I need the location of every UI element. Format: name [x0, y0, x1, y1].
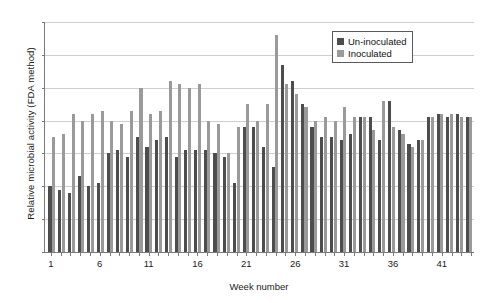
bar-inoculated	[372, 130, 375, 252]
bar-un-inoculated	[291, 81, 294, 252]
x-tick-mark	[158, 252, 159, 256]
bar-inoculated	[275, 35, 278, 252]
x-tick-mark	[461, 252, 462, 256]
bar-inoculated	[246, 104, 249, 252]
bar-inoculated	[217, 124, 220, 252]
bar-inoculated	[431, 117, 434, 252]
bar-un-inoculated	[145, 147, 148, 252]
x-tick-mark	[237, 252, 238, 256]
bar-group	[125, 22, 135, 252]
bar-un-inoculated	[68, 193, 71, 252]
x-tick-mark	[305, 252, 306, 256]
x-tick-mark	[442, 252, 443, 256]
x-tick-label: 21	[233, 258, 259, 269]
bar-un-inoculated	[437, 114, 440, 252]
x-tick-mark	[412, 252, 413, 256]
bar-group	[435, 22, 445, 252]
bar-group	[76, 22, 86, 252]
bar-group	[57, 22, 67, 252]
bar-group	[416, 22, 426, 252]
x-tick-mark	[168, 252, 169, 256]
bar-group	[455, 22, 465, 252]
bar-group	[464, 22, 474, 252]
x-axis-ticks: 1611162126313641	[44, 252, 474, 257]
bar-inoculated	[81, 121, 84, 252]
bar-un-inoculated	[194, 150, 197, 252]
x-tick-mark	[422, 252, 423, 256]
bar-group	[202, 22, 212, 252]
x-tick-mark	[188, 252, 189, 256]
x-tick-mark	[110, 252, 111, 256]
bar-inoculated	[237, 127, 240, 252]
bar-group	[193, 22, 203, 252]
bar-un-inoculated	[175, 157, 178, 252]
bar-inoculated	[363, 117, 366, 252]
bar-group	[47, 22, 57, 252]
bar-un-inoculated	[378, 140, 381, 252]
x-tick-mark	[315, 252, 316, 256]
x-tick-mark	[325, 252, 326, 256]
bar-inoculated	[304, 107, 307, 252]
x-tick-mark	[70, 252, 71, 256]
bar-group	[309, 22, 319, 252]
bar-inoculated	[159, 111, 162, 252]
bar-group	[163, 22, 173, 252]
bar-un-inoculated	[87, 186, 90, 252]
bar-un-inoculated	[320, 137, 323, 252]
bar-inoculated	[285, 84, 288, 252]
bar-inoculated	[324, 117, 327, 252]
bar-un-inoculated	[184, 150, 187, 252]
bar-un-inoculated	[272, 167, 275, 252]
legend-label-inoculated: Inoculated	[348, 48, 392, 59]
x-tick-mark	[207, 252, 208, 256]
bar-inoculated	[62, 134, 65, 252]
bar-un-inoculated	[407, 144, 410, 252]
y-axis-title: Relative microbial activity (FDA method)	[25, 9, 36, 259]
bar-un-inoculated	[116, 150, 119, 252]
bar-un-inoculated	[446, 117, 449, 252]
bar-group	[251, 22, 261, 252]
x-tick-mark	[285, 252, 286, 256]
x-tick-label: 36	[380, 258, 406, 269]
bar-un-inoculated	[126, 157, 129, 252]
bar-un-inoculated	[388, 101, 391, 252]
x-tick-mark	[139, 252, 140, 256]
bar-un-inoculated	[466, 117, 469, 252]
bar-group	[154, 22, 164, 252]
bar-group	[105, 22, 115, 252]
x-tick-mark	[364, 252, 365, 256]
x-tick-mark	[276, 252, 277, 256]
bar-un-inoculated	[78, 176, 81, 252]
x-tick-mark	[334, 252, 335, 256]
x-tick-label: 41	[429, 258, 455, 269]
bar-un-inoculated	[252, 127, 255, 252]
chart-legend: Un-inoculated Inoculated	[332, 31, 413, 63]
x-tick-mark	[403, 252, 404, 256]
bar-inoculated	[139, 88, 142, 252]
bar-group	[212, 22, 222, 252]
bar-inoculated	[149, 114, 152, 252]
x-tick-mark	[295, 252, 296, 256]
bar-inoculated	[421, 140, 424, 252]
x-tick-mark	[246, 252, 247, 256]
bar-un-inoculated	[155, 140, 158, 252]
bar-group	[445, 22, 455, 252]
bar-inoculated	[450, 114, 453, 252]
bar-group	[290, 22, 300, 252]
bar-un-inoculated	[398, 130, 401, 252]
bar-group	[231, 22, 241, 252]
bar-inoculated	[101, 111, 104, 252]
x-tick-mark	[90, 252, 91, 256]
bar-inoculated	[353, 117, 356, 252]
legend-item-inoculated: Inoculated	[337, 47, 407, 59]
bar-inoculated	[198, 84, 201, 252]
bar-group	[173, 22, 183, 252]
bar-un-inoculated	[223, 157, 226, 252]
x-tick-mark	[61, 252, 62, 256]
bar-inoculated	[401, 134, 404, 252]
bar-un-inoculated	[58, 190, 61, 252]
bar-group	[241, 22, 251, 252]
bar-group	[222, 22, 232, 252]
bar-inoculated	[382, 101, 385, 252]
x-tick-label: 31	[331, 258, 357, 269]
